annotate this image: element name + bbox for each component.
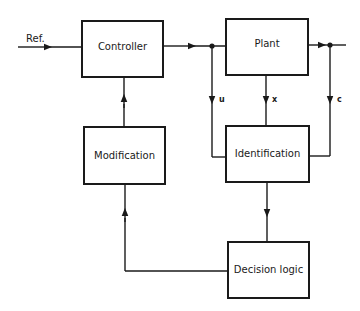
identification-block: Identification	[226, 126, 309, 182]
controller-block: Controller	[82, 21, 163, 77]
signal-x-label: x	[272, 95, 278, 104]
signal-x: x	[266, 75, 278, 126]
decision-logic-label: Decision logic	[234, 264, 303, 275]
decision-logic-block: Decision logic	[228, 242, 309, 298]
plant-output-arrow	[308, 42, 346, 47]
signal-u-label: u	[219, 95, 225, 104]
modification-block: Modification	[84, 127, 165, 184]
signal-c: c	[309, 45, 342, 156]
reference-input: Ref.	[18, 33, 82, 47]
signal-c-label: c	[337, 95, 342, 104]
controller-label: Controller	[98, 41, 148, 52]
modification-label: Modification	[94, 150, 155, 161]
adaptive-control-diagram: Ref. Controller Plant u x c	[0, 0, 360, 311]
identification-label: Identification	[235, 148, 301, 159]
plant-block: Plant	[226, 19, 308, 75]
signal-u: u	[212, 46, 226, 157]
reference-label: Ref.	[26, 33, 45, 44]
controller-to-plant-arrow	[163, 43, 226, 48]
decision-to-modification-arrow	[125, 184, 228, 271]
plant-label: Plant	[254, 38, 279, 49]
